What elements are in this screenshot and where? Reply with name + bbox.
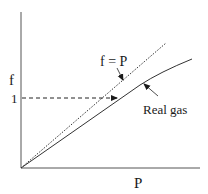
diagram-canvas: f 1 f = P Real gas P xyxy=(0,0,208,194)
ideal-line-label: f = P xyxy=(100,54,128,69)
x-axis-label: P xyxy=(134,175,142,191)
real-label-arrow xyxy=(144,84,158,96)
y-axis-label: f xyxy=(9,72,14,88)
real-line-label: Real gas xyxy=(143,102,187,117)
y-tick-label: 1 xyxy=(11,91,18,106)
ideal-label-arrow xyxy=(117,68,123,80)
